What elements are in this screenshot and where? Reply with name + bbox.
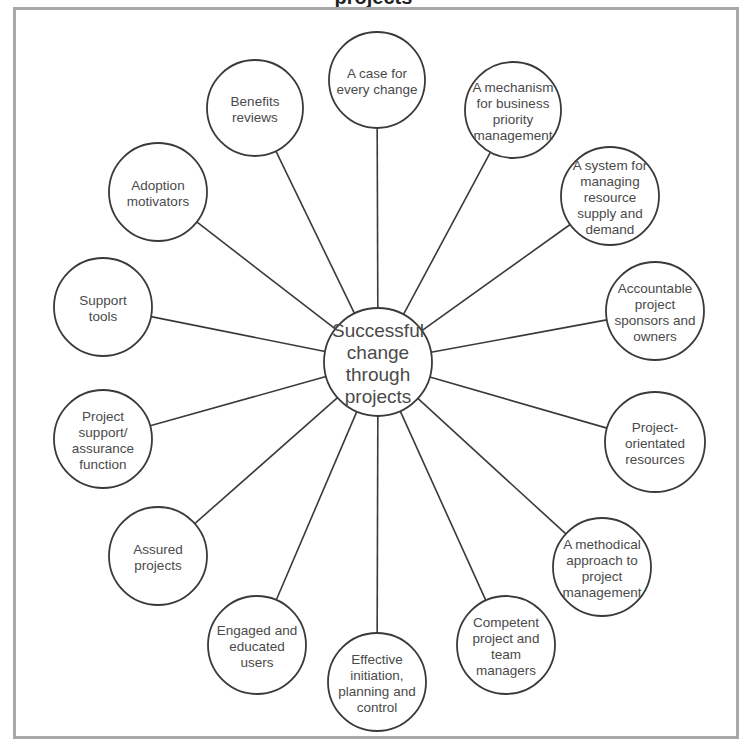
node-label-line: function [79, 457, 126, 472]
node-competent-managers: Competentproject andteammanagers [457, 596, 555, 694]
node-label-line: projects [345, 386, 412, 407]
node-label-line: Effective [351, 652, 403, 667]
center-node: Successfulchangethroughprojects [324, 308, 432, 416]
node-label-line: Support [79, 293, 127, 308]
spoke-project-support [150, 377, 326, 426]
node-label-line: projects [134, 558, 182, 573]
node-support-tools: Supporttools [54, 258, 152, 356]
node-label-line: change [347, 342, 409, 363]
node-label-line: Accountable [618, 281, 692, 296]
node-resource-supply: A system formanagingresourcesupply andde… [561, 147, 659, 245]
node-label-line: Successful [332, 320, 424, 341]
node-business-priority: A mechanismfor businessprioritymanagemen… [465, 62, 561, 158]
node-label-line: orientated [625, 436, 685, 451]
spoke-adoption-motivators [197, 222, 335, 329]
node-label-line: project [635, 297, 676, 312]
node-effective-initiation: Effectiveinitiation,planning andcontrol [328, 633, 426, 731]
node-label-line: management [563, 585, 642, 600]
spoke-case-for-change [377, 128, 378, 308]
node-label-line: demand [586, 222, 635, 237]
node-label-line: project and [473, 631, 540, 646]
spoke-accountable-sponsors [431, 320, 607, 352]
node-label-line: Benefits [231, 94, 280, 109]
node-project-orientated: Project-orientatedresources [605, 392, 705, 492]
node-engaged-users: Engaged andeducatedusers [208, 596, 306, 694]
node-label-line: A mechanism [472, 80, 553, 95]
node-label-line: reviews [232, 110, 278, 125]
node-label-line: management [474, 128, 553, 143]
node-benefits-reviews: Benefitsreviews [207, 60, 303, 156]
node-label-line: approach to [566, 553, 637, 568]
node-label-line: team [491, 647, 521, 662]
node-label-line: Engaged and [217, 623, 297, 638]
node-label-line: assurance [72, 441, 134, 456]
node-case-for-change: A case forevery change [329, 32, 425, 128]
node-label-line: Project- [632, 420, 679, 435]
node-label-line: through [346, 364, 410, 385]
node-label-line: resource [584, 190, 637, 205]
node-label-line: every change [336, 82, 417, 97]
node-label-line: Competent [473, 615, 539, 630]
node-label-line: A case for [347, 66, 408, 81]
node-project-support: Projectsupport/assurancefunction [54, 390, 152, 488]
node-label-line: A methodical [563, 537, 640, 552]
node-label-line: priority [493, 112, 534, 127]
spoke-competent-managers [400, 411, 486, 600]
node-label-line: initiation, [350, 668, 403, 683]
node-label-line: tools [89, 309, 118, 324]
node-label-line: for business [477, 96, 550, 111]
node-methodical-approach: A methodicalapproach toprojectmanagement [553, 518, 651, 616]
node-label-line: sponsors and [614, 313, 695, 328]
node-label-line: Project [82, 409, 124, 424]
node-accountable-sponsors: Accountableprojectsponsors andowners [606, 262, 704, 360]
spoke-assured-projects [195, 398, 338, 524]
spoke-methodical-approach [418, 398, 566, 533]
node-label-line: supply and [577, 206, 642, 221]
node-label-line: planning and [338, 684, 415, 699]
hub-and-spoke-diagram: A case forevery changeA mechanismfor bus… [0, 0, 747, 747]
node-label-line: Assured [133, 542, 183, 557]
spoke-engaged-users [276, 412, 357, 600]
node-label-line: managing [580, 174, 639, 189]
spoke-benefits-reviews [276, 151, 355, 313]
node-label-line: resources [625, 452, 685, 467]
node-label-line: users [240, 655, 273, 670]
node-label-line: educated [229, 639, 285, 654]
spoke-support-tools [151, 317, 325, 352]
node-label-line: control [357, 700, 398, 715]
node-label-line: motivators [127, 194, 190, 209]
spoke-project-orientated [430, 377, 607, 428]
node-label-line: support/ [79, 425, 128, 440]
node-label-line: A system for [573, 158, 648, 173]
spoke-effective-initiation [377, 416, 378, 633]
node-label-line: managers [476, 663, 536, 678]
spoke-resource-supply [422, 225, 570, 331]
node-label-line: owners [633, 329, 677, 344]
node-adoption-motivators: Adoptionmotivators [109, 143, 207, 241]
node-label-line: Adoption [131, 178, 184, 193]
node-assured-projects: Assuredprojects [109, 507, 207, 605]
node-label-line: project [582, 569, 623, 584]
